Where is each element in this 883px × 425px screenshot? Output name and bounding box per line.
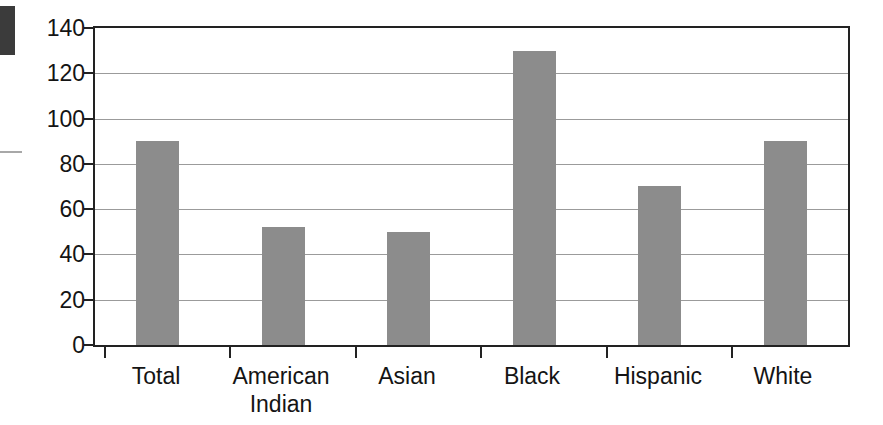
y-tick-label: 100 bbox=[29, 105, 85, 132]
y-tick-mark bbox=[84, 208, 95, 210]
x-tick-mark bbox=[731, 347, 733, 358]
bar bbox=[387, 232, 430, 345]
x-tick-mark bbox=[606, 347, 608, 358]
y-tick-label: 120 bbox=[29, 60, 85, 87]
gridline bbox=[95, 209, 848, 210]
bar bbox=[638, 186, 681, 345]
x-tick-label: Total bbox=[132, 363, 181, 391]
bar bbox=[764, 141, 807, 345]
x-axis: TotalAmerican IndianAsianBlackHispanicWh… bbox=[93, 347, 850, 425]
plot-area: 020406080100120140 bbox=[93, 26, 850, 347]
gridline bbox=[95, 164, 848, 165]
y-tick-mark bbox=[84, 253, 95, 255]
y-tick-mark bbox=[84, 72, 95, 74]
scan-artifact-block bbox=[0, 6, 15, 55]
bar-chart-figure: 020406080100120140 TotalAmerican IndianA… bbox=[0, 0, 883, 425]
y-tick-label: 0 bbox=[29, 332, 85, 359]
x-tick-label: Hispanic bbox=[614, 363, 702, 391]
x-tick-label: American Indian bbox=[232, 363, 329, 418]
bar bbox=[513, 51, 556, 345]
y-tick-mark bbox=[84, 163, 95, 165]
x-tick-mark bbox=[355, 347, 357, 358]
y-tick-mark bbox=[84, 118, 95, 120]
x-tick-label: Asian bbox=[378, 363, 436, 391]
y-tick-mark bbox=[84, 344, 95, 346]
gridline bbox=[95, 300, 848, 301]
y-tick-mark bbox=[84, 27, 95, 29]
x-tick-label: White bbox=[754, 363, 813, 391]
x-tick-mark bbox=[480, 347, 482, 358]
y-tick-label: 40 bbox=[29, 241, 85, 268]
gridline bbox=[95, 254, 848, 255]
scan-artifact-rule bbox=[0, 151, 22, 153]
x-tick-mark bbox=[229, 347, 231, 358]
y-tick-label: 80 bbox=[29, 150, 85, 177]
y-tick-label: 20 bbox=[29, 286, 85, 313]
y-tick-label: 60 bbox=[29, 196, 85, 223]
bar bbox=[136, 141, 179, 345]
gridline bbox=[95, 73, 848, 74]
x-tick-mark bbox=[104, 347, 106, 358]
gridline bbox=[95, 119, 848, 120]
y-tick-mark bbox=[84, 299, 95, 301]
x-tick-label: Black bbox=[504, 363, 560, 391]
y-tick-label: 140 bbox=[29, 15, 85, 42]
bar bbox=[262, 227, 305, 345]
